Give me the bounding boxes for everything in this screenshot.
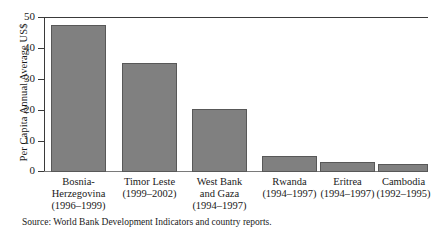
x-category-line-1: Timor Leste	[114, 176, 185, 188]
x-category-line-2: (1999–2002)	[114, 188, 185, 200]
x-category-label-timor-leste: Timor Leste (1999–2002)	[114, 176, 185, 200]
bar-eritrea	[320, 162, 375, 172]
y-tick-label-10: 10	[1, 135, 35, 146]
x-category-label-bosnia-herzegovina: Bosnia- Herzegovina (1996–1999)	[43, 176, 114, 213]
bar-bosnia-herzegovina	[51, 25, 106, 172]
x-category-line-2: Herzegovina	[43, 188, 114, 200]
y-axis-title: Per Capita Annual Average US$	[18, 3, 29, 183]
bar-cambodia	[378, 164, 428, 172]
x-category-line-3: (1994–1997)	[184, 200, 255, 212]
source-caption: Source: World Bank Development Indicator…	[22, 217, 272, 227]
x-category-label-west-bank-and-gaza: West Bank and Gaza (1994–1997)	[184, 176, 255, 213]
bar-west-bank-and-gaza	[192, 109, 247, 172]
x-category-label-cambodia: Cambodia (1992–1995)	[368, 176, 437, 200]
y-tick-label-20: 20	[1, 104, 35, 115]
x-category-line-3: (1996–1999)	[43, 200, 114, 212]
x-category-line-1: Bosnia-	[43, 176, 114, 188]
bar-rwanda	[262, 156, 317, 173]
x-category-line-1: West Bank	[184, 176, 255, 188]
y-tick-label-30: 30	[1, 73, 35, 84]
y-tick-label-0: 0	[1, 165, 35, 176]
bar-timor-leste	[122, 63, 177, 173]
y-tick-label-40: 40	[1, 42, 35, 53]
x-category-line-1: Cambodia	[368, 176, 437, 188]
x-category-line-2: and Gaza	[184, 188, 255, 200]
x-category-line-2: (1992–1995)	[368, 188, 437, 200]
bar-chart-figure: Per Capita Annual Average US$ 50 40 30 2…	[0, 0, 437, 227]
y-tick-label-50: 50	[1, 11, 35, 22]
